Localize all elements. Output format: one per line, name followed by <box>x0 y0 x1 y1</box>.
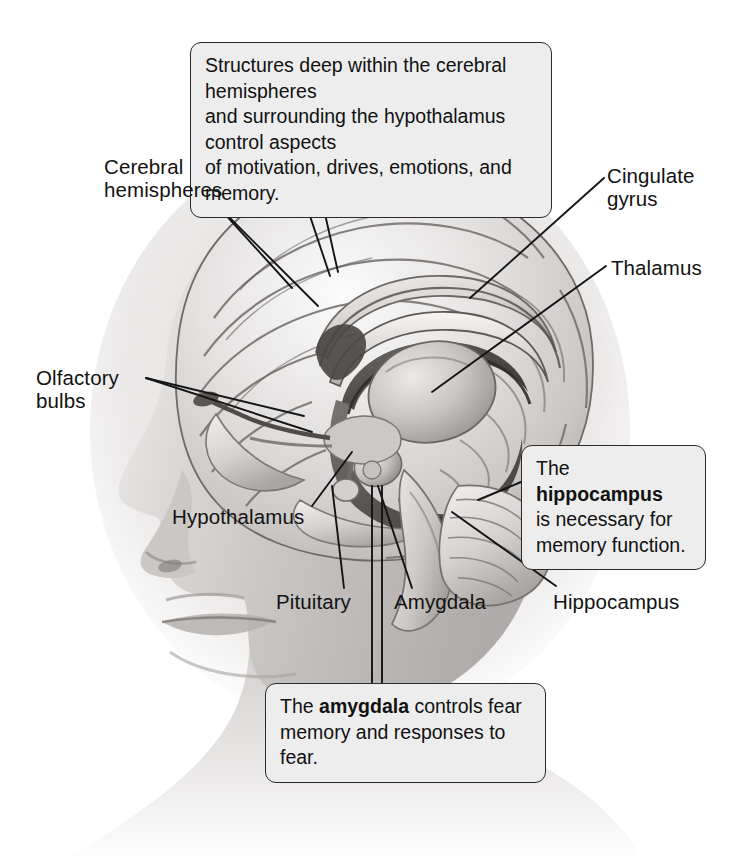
hypothalamus-shape <box>324 416 401 464</box>
label-hippocampus: Hippocampus <box>553 590 679 613</box>
pituitary-gland-shape <box>333 479 359 501</box>
label-olfactory-bulbs: Olfactory bulbs <box>36 366 119 412</box>
label-thalamus: Thalamus <box>611 256 702 279</box>
callout-amygdala-term: amygdala <box>319 695 409 717</box>
callout-amygdala: The amygdala controls fear memory and re… <box>265 683 546 783</box>
callout-amygdala-lead: The <box>280 695 319 717</box>
callout-hippocampus-lead: The <box>536 457 570 479</box>
callout-hippocampus-tail: is necessary for memory function. <box>536 508 686 556</box>
label-cingulate-gyrus: Cingulate gyrus <box>607 164 695 210</box>
label-pituitary: Pituitary <box>276 590 351 613</box>
callout-limbic-overview: Structures deep within the cerebral hemi… <box>190 42 552 218</box>
figure-canvas: Structures deep within the cerebral hemi… <box>0 0 743 856</box>
callout-hippocampus-term: hippocampus <box>536 483 663 505</box>
label-cerebral-hemispheres: Cerebral hemispheres <box>104 155 222 201</box>
callout-hippocampus: The hippocampus is necessary for memory … <box>521 445 706 570</box>
label-hypothalamus: Hypothalamus <box>172 505 304 528</box>
label-amygdala: Amygdala <box>394 590 486 613</box>
